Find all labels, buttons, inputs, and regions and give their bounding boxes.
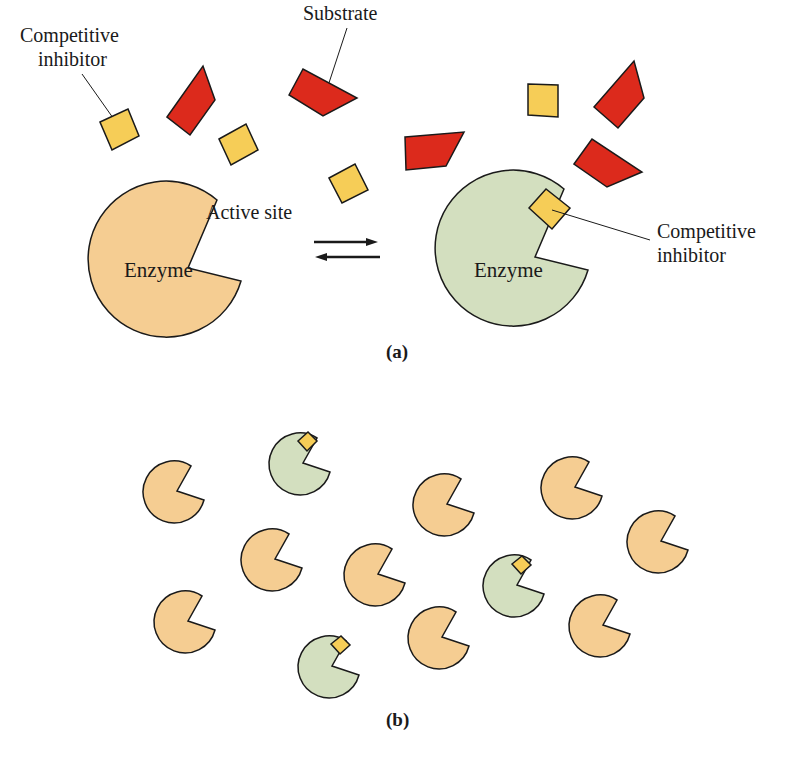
inhibitor-molecule: [528, 84, 558, 117]
enzyme-label-left: Enzyme: [124, 258, 193, 282]
competitive-inhibitor-label-top-line2: inhibitor: [38, 48, 107, 70]
enzyme-free-small: [569, 595, 630, 657]
leader-line-inhibitor-right: [552, 210, 650, 240]
caption-a: (a): [386, 341, 408, 363]
substrate-molecule: [289, 69, 357, 116]
substrate-molecule: [594, 61, 644, 128]
enzyme-free-small: [154, 591, 215, 653]
enzyme-free-small: [344, 544, 405, 606]
substrate-molecule: [574, 139, 642, 187]
inhibitor-molecule: [219, 124, 258, 165]
substrate-label: Substrate: [303, 2, 378, 24]
enzyme-free-small: [241, 529, 302, 591]
competitive-inhibitor-label-right-line1: Competitive: [657, 220, 756, 243]
panel-a: Competitive inhibitor Substrate Enzyme A…: [20, 2, 756, 363]
panel-b: (b): [143, 432, 688, 731]
caption-b: (b): [386, 709, 409, 731]
enzyme-label-right: Enzyme: [474, 258, 543, 282]
inhibitor-molecule: [100, 109, 139, 150]
substrate-molecule: [405, 132, 464, 170]
enzyme-free-small: [413, 474, 474, 536]
competitive-inhibition-diagram: Competitive inhibitor Substrate Enzyme A…: [0, 0, 796, 758]
substrate-molecule: [167, 66, 215, 135]
competitive-inhibitor-label-right-line2: inhibitor: [657, 244, 726, 266]
equilibrium-arrows-icon: [314, 238, 380, 261]
competitive-inhibitor-label-top-line1: Competitive: [20, 24, 119, 47]
enzyme-inhibited-large: [435, 170, 588, 326]
enzyme-free-small: [143, 461, 204, 523]
enzyme-free-small: [408, 607, 469, 669]
enzyme-free-small: [541, 457, 602, 519]
enzyme-free-small: [627, 511, 688, 573]
inhibitor-molecule: [329, 164, 368, 203]
active-site-label: Active site: [206, 201, 292, 223]
